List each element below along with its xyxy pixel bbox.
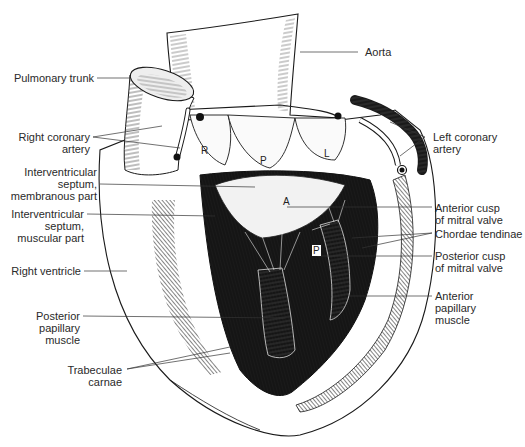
cusp-letter-right: R (201, 145, 208, 156)
label-iv-septum-membranous: Interventricular septum, membranous part (11, 166, 97, 202)
label-line: membranous part (11, 190, 97, 202)
label-line: septum, (11, 220, 84, 232)
label-line: Right coronary (18, 131, 90, 143)
cusp-letter-posterior-mitral: P (312, 245, 321, 256)
label-right-coronary-artery: Right coronary artery (18, 131, 90, 155)
label-line: Chordae tendinae (435, 228, 522, 240)
label-chordae-tendinae: Chordae tendinae (435, 228, 522, 240)
label-line: artery (433, 143, 497, 155)
label-anterior-cusp-mitral: Anterior cusp of mitral valve (435, 202, 503, 226)
label-trabeculae-carnae: Trabeculae carnae (67, 364, 122, 388)
label-line: Posterior (36, 310, 80, 322)
label-line: of mitral valve (435, 262, 505, 274)
aorta-shape (167, 14, 340, 118)
label-line: muscular part (11, 232, 84, 244)
label-line: of mitral valve (435, 214, 503, 226)
cusp-letter-posterior: P (260, 155, 267, 166)
label-posterior-papillary-muscle: Posterior papillary muscle (36, 310, 80, 346)
label-line: Pulmonary trunk (14, 72, 94, 84)
label-posterior-cusp-mitral: Posterior cusp of mitral valve (435, 250, 505, 274)
cusp-letter-anterior-mitral: A (283, 196, 290, 207)
label-line: Right ventricle (11, 265, 81, 277)
label-anterior-papillary-muscle: Anterior papillary muscle (435, 290, 476, 326)
label-right-ventricle: Right ventricle (11, 265, 81, 277)
label-line: Anterior (435, 290, 476, 302)
label-line: Anterior cusp (435, 202, 503, 214)
label-line: carnae (67, 376, 122, 388)
label-line: Interventricular (11, 208, 84, 220)
label-aorta: Aorta (365, 46, 391, 58)
label-line: muscle (435, 314, 476, 326)
cusp-letter-left: L (324, 148, 330, 159)
label-line: papillary (435, 302, 476, 314)
label-pulmonary-trunk: Pulmonary trunk (14, 72, 94, 84)
label-line: septum, (11, 178, 97, 190)
label-line: papillary (36, 322, 80, 334)
label-iv-septum-muscular: Interventricular septum, muscular part (11, 208, 84, 244)
label-line: Interventricular (11, 166, 97, 178)
label-line: Trabeculae (67, 364, 122, 376)
label-line: artery (18, 143, 90, 155)
label-line: muscle (36, 334, 80, 346)
heart-diagram: R P L A P Pulmonary trunk Right coronary… (0, 0, 525, 447)
label-line: Left coronary (433, 131, 497, 143)
label-line: Aorta (365, 46, 391, 58)
label-left-coronary-artery: Left coronary artery (433, 131, 497, 155)
label-line: Posterior cusp (435, 250, 505, 262)
